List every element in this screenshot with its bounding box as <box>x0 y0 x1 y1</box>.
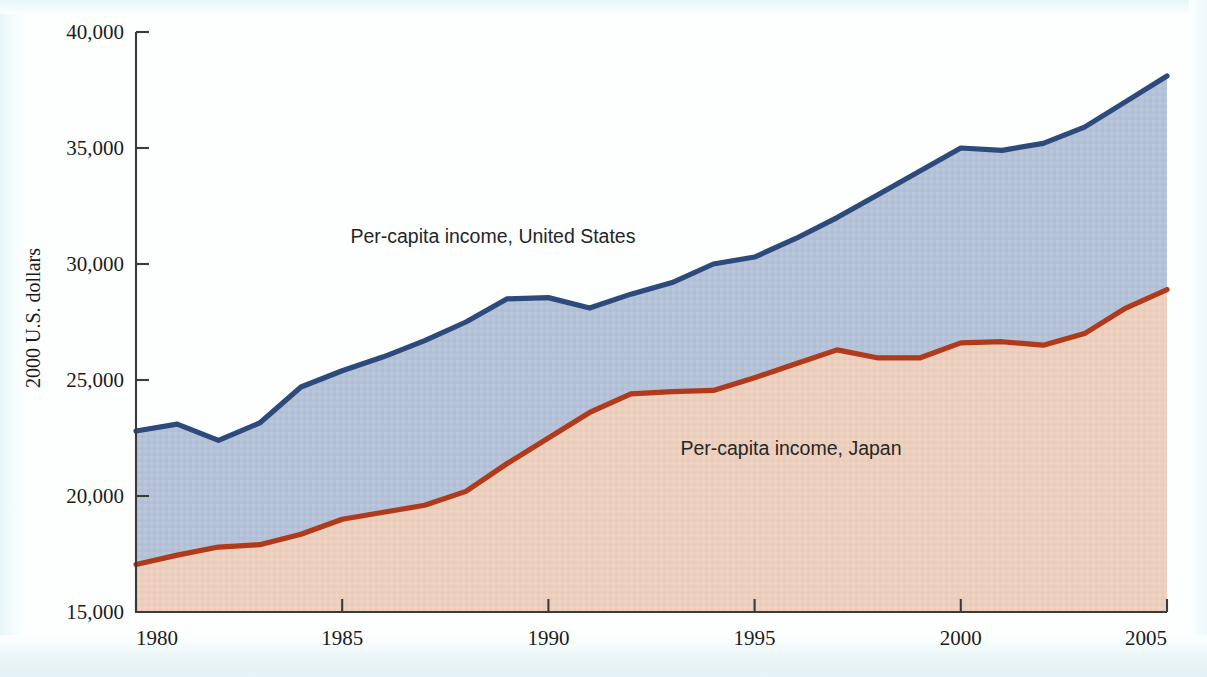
y-tick-label: 30,000 <box>66 252 124 276</box>
x-tick-label: 2000 <box>940 626 982 650</box>
y-tick-label: 20,000 <box>66 484 124 508</box>
y-tick-label: 40,000 <box>66 20 124 44</box>
y-tick-label: 15,000 <box>66 600 124 624</box>
x-tick-label: 2005 <box>1125 626 1167 650</box>
x-tick-label: 1995 <box>734 626 776 650</box>
y-axis-ticks <box>136 32 149 496</box>
y-tick-label: 25,000 <box>66 368 124 392</box>
x-tick-label: 1980 <box>136 626 178 650</box>
x-tick-label: 1985 <box>321 626 363 650</box>
us-series-annotation: Per-capita income, United States <box>350 225 635 247</box>
japan-series-annotation: Per-capita income, Japan <box>680 437 901 459</box>
x-tick-label: 1990 <box>527 626 569 650</box>
area-chart: 15,00020,00025,00030,00035,00040,000 198… <box>0 0 1207 677</box>
y-axis-title: 2000 U.S. dollars <box>22 248 44 388</box>
y-tick-label: 35,000 <box>66 136 124 160</box>
x-axis-tick-labels: 198019851990199520002005 <box>136 626 1167 650</box>
y-axis-tick-labels: 15,00020,00025,00030,00035,00040,000 <box>66 20 124 624</box>
figure-page: 15,00020,00025,00030,00035,00040,000 198… <box>0 0 1207 677</box>
